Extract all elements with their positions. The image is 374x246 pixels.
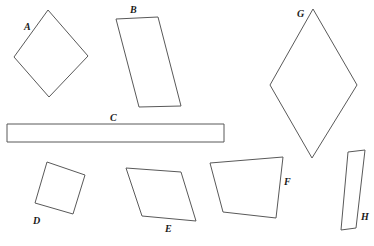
- shape-e-label: E: [164, 223, 172, 234]
- shape-b-label: B: [129, 4, 137, 15]
- figure-canvas: ABCDEFGH: [0, 0, 374, 246]
- labels-layer: ABCDEFGH: [23, 4, 370, 234]
- shape-a-label: A: [23, 21, 31, 32]
- shape-f: [210, 157, 283, 218]
- shape-b: [116, 17, 181, 107]
- shape-f-label: F: [283, 176, 291, 187]
- shapes-layer: [7, 9, 365, 230]
- shape-d: [35, 162, 85, 214]
- shape-d-label: D: [32, 215, 40, 226]
- shape-e: [126, 168, 196, 221]
- shape-c: [7, 124, 224, 142]
- shape-h-label: H: [360, 211, 370, 222]
- quadrilaterals-diagram: ABCDEFGH: [0, 0, 374, 246]
- shape-g: [270, 9, 357, 158]
- shape-g-label: G: [297, 8, 305, 19]
- shape-c-label: C: [110, 112, 117, 123]
